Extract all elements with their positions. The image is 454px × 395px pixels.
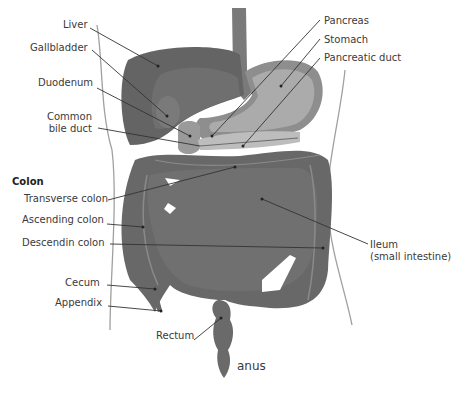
label-transverse-colon: Transverse colon	[24, 193, 108, 204]
label-gallbladder: Gallbladder	[30, 42, 88, 53]
gallbladder	[156, 96, 180, 128]
label-ileum-line2: (small intestine)	[370, 251, 451, 262]
duodenum	[178, 121, 200, 154]
label-common-bile-duct-line1: Common	[40, 111, 92, 122]
label-common-bile-duct-line2: bile duct	[40, 123, 92, 134]
label-cecum: Cecum	[65, 277, 100, 288]
label-duodenum: Duodenum	[38, 77, 93, 88]
label-ascending-colon: Ascending colon	[22, 214, 104, 225]
label-pancreas: Pancreas	[324, 15, 369, 26]
label-pancreatic-duct: Pancreatic duct	[324, 52, 401, 63]
small-intestine	[148, 168, 318, 291]
label-appendix: Appendix	[55, 297, 102, 308]
label-stomach: Stomach	[324, 34, 368, 45]
rectum	[212, 300, 233, 378]
label-rectum: Rectum	[156, 330, 194, 341]
section-heading-colon: Colon	[12, 176, 44, 187]
label-anus: anus	[237, 361, 266, 372]
label-ileum-line1: Ileum	[370, 239, 398, 250]
label-descending-colon: Descendin colon	[22, 237, 105, 248]
label-liver: Liver	[63, 19, 88, 30]
